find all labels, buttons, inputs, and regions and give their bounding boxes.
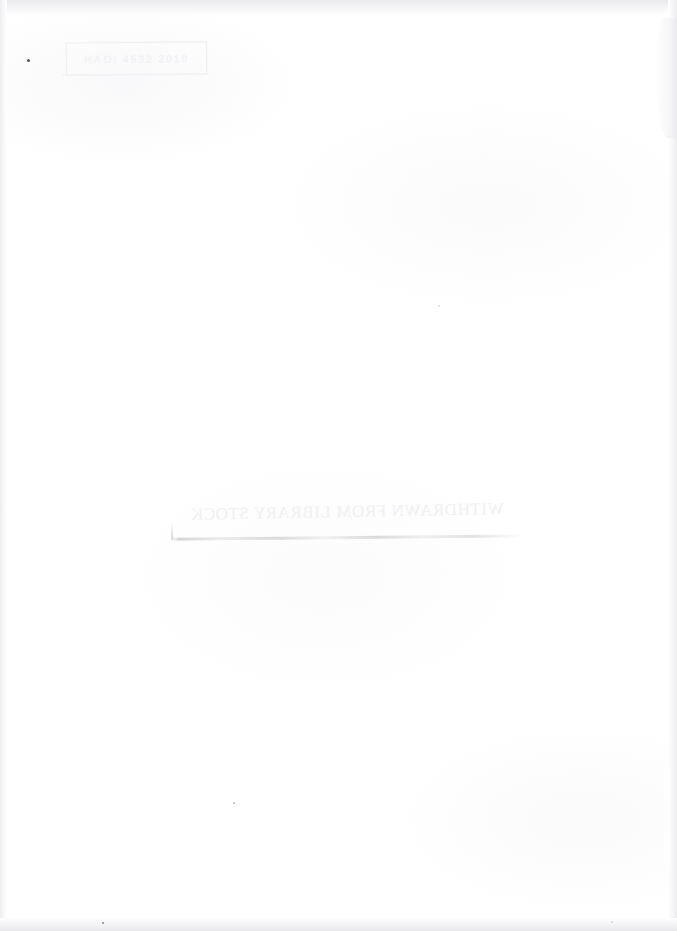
scanned-page: HAOI 4532 2010 · · · ·· · · · ·· · · · ·… <box>0 0 677 931</box>
paper-texture <box>0 0 677 931</box>
scan-speck-upper-left <box>27 59 30 62</box>
library-date-stamp-text: HAOI 4532 2010 <box>84 52 189 65</box>
scan-edge-bottom <box>0 918 677 931</box>
scan-edge-top <box>0 0 677 14</box>
scan-speck-mid-right <box>438 305 440 307</box>
scan-speck-lower-center <box>233 802 235 804</box>
scan-speck-bottom-left <box>102 922 104 924</box>
scan-edge-corner-top-right <box>655 18 677 138</box>
withdrawn-stamp-text: WITHDRAWN FROM LIBRARY STOCK <box>168 495 526 530</box>
library-date-stamp-underline <box>62 74 207 76</box>
withdrawn-stamp: WITHDRAWN FROM LIBRARY STOCK <box>168 495 526 532</box>
scan-edge-right <box>668 0 677 931</box>
scan-edge-left <box>0 0 7 931</box>
library-date-stamp: HAOI 4532 2010 <box>66 42 207 76</box>
faint-showthrough-band: · · · ·· · · · ·· · · · ··· · ·· · · ·· … <box>78 162 598 184</box>
pencil-smudge-line <box>172 534 522 540</box>
scan-speck-bottom-right <box>611 921 613 923</box>
